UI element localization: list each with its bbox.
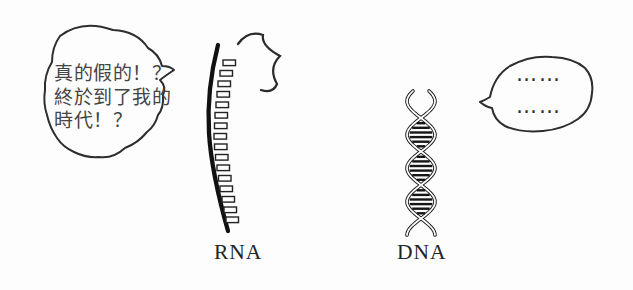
rna-base-rect (216, 102, 229, 108)
comic-artwork (0, 0, 633, 290)
dna-base-pair-stripe (412, 208, 430, 210)
dna-base-pair-stripe (412, 174, 430, 176)
rna-base-rect (214, 134, 227, 140)
dna-base-pair-stripe (417, 189, 425, 191)
rna-base-rect (216, 155, 229, 161)
dna-label: DNA (397, 240, 447, 265)
rna-base-rect (218, 81, 231, 87)
rna-base-rect (215, 123, 228, 129)
rna-base-rect (219, 176, 232, 182)
speech-line: 終於到了我的 (54, 86, 171, 110)
rna-strand-drawing (208, 45, 238, 231)
rna-base-rect (224, 207, 237, 213)
rna-speech-text: 真的假的！？ 終於到了我的 時代！？ (54, 62, 171, 133)
rna-label: RNA (214, 240, 262, 265)
dna-base-pair-stripe (410, 136, 433, 138)
dna-base-pair-stripe (417, 145, 425, 147)
dna-base-pair-stripe (412, 127, 430, 129)
dna-base-pair-stripe (410, 165, 433, 167)
speech-line: 時代！？ (54, 109, 171, 133)
dna-base-pair-stripe (417, 122, 425, 124)
dna-base-pair-stripe (410, 203, 433, 205)
speech-line: …… (516, 90, 562, 122)
dna-base-pair-stripe (412, 160, 430, 162)
dna-base-pair-stripe (410, 169, 433, 171)
dna-base-pair-stripe (410, 198, 433, 200)
dna-base-pair-stripe (410, 131, 433, 133)
rna-base-rect (220, 186, 233, 192)
speech-line: …… (516, 58, 562, 90)
dna-speech-text: …… …… (516, 58, 562, 122)
rna-base-rect (223, 60, 236, 66)
rna-base-rect (217, 92, 230, 98)
speech-line: 真的假的！？ (54, 62, 171, 86)
dna-base-pair-stripe (412, 194, 430, 196)
rna-base-rect (222, 197, 235, 203)
rna-base-rect (217, 165, 230, 171)
rna-base-rect (215, 144, 228, 150)
dna-helix-drawing (407, 91, 435, 235)
dna-base-pair-stripe (417, 179, 425, 181)
rna-base-rect (220, 71, 233, 77)
comic-panel: 真的假的！？ 終於到了我的 時代！？ …… …… RNA DNA (0, 0, 633, 290)
rna-base-rect (226, 217, 239, 223)
rna-base-rect (215, 113, 228, 119)
dna-base-pair-stripe (417, 212, 425, 214)
excitement-burst-icon (238, 34, 280, 91)
dna-base-pair-stripe (412, 141, 430, 143)
dna-base-pair-stripe (417, 156, 425, 158)
